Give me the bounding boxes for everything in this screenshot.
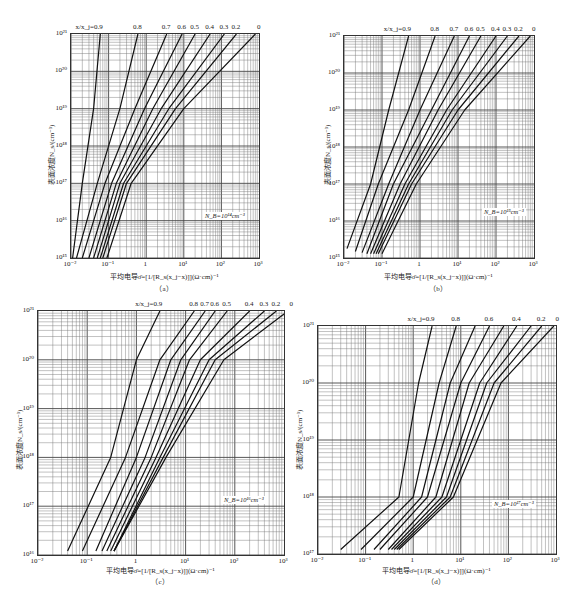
x-axis-label-d: 平均电导σ̄=[1/[R_s(x_j−x)]](Ω·cm)⁻¹: [317, 565, 555, 575]
x-tick-label: 10²: [492, 556, 522, 564]
curve-top-label: 0.6: [210, 300, 219, 308]
y-tick-label: 10²⁰: [314, 68, 340, 76]
curve-0_9: [347, 36, 409, 249]
curve-top-label: x/x_j=0.9: [76, 23, 103, 31]
x-tick-label: 10³: [518, 260, 548, 268]
y-tick-label: 10¹⁷: [8, 501, 34, 509]
y-tick-label: 10²⁰: [8, 355, 34, 363]
curve-top-label: 0.5: [476, 25, 485, 33]
sub-label-a: （a）: [70, 283, 258, 293]
curve-0_3: [394, 326, 531, 550]
chart-c-svg: [38, 311, 284, 555]
y-tick-label: 10¹⁹: [314, 105, 340, 113]
curve-top-label: 0.7: [162, 23, 171, 31]
curve-top-label: 0: [257, 23, 261, 31]
curve-top-label: 0.2: [514, 25, 523, 33]
curve-top-label: 0.7: [449, 25, 458, 33]
nb-annotation-d: N_B=10¹⁷cm⁻³: [492, 500, 536, 508]
chart-d-svg: [318, 326, 556, 554]
curve-top-label: 0.5: [190, 23, 199, 31]
curve-0_6: [102, 311, 215, 551]
curve-top-label: 0.2: [537, 315, 546, 323]
x-axis-label-a: 平均电导σ̄=[1/[R_s(x_j−x)]](Ω·cm)⁻¹: [70, 271, 258, 281]
x-axis-label-b: 平均电导σ̄=[1/[R_s(x_j−x)]](Ω·cm)⁻¹: [343, 271, 533, 281]
x-tick-label: 10⁻²: [55, 260, 85, 268]
y-axis-label-b: 表面浓度N_s/(cm⁻³): [322, 125, 332, 185]
nb-annotation-a: N_B=10¹⁴cm⁻³: [203, 212, 247, 220]
y-tick-label: 10²¹: [314, 31, 340, 39]
curve-top-label: 0.8: [430, 25, 439, 33]
curve-top-label: 0.4: [512, 315, 521, 323]
curve-top-label: x/x_j=0.9: [407, 315, 434, 323]
y-tick-label: 10²¹: [41, 29, 67, 37]
curve-0_7: [96, 311, 205, 551]
y-tick-label: 10¹⁶: [41, 216, 67, 224]
y-tick-label: 10²¹: [8, 306, 34, 314]
curve-top-label: 0.3: [260, 300, 269, 308]
curve-top-label: 0.7: [200, 300, 209, 308]
chart-b-svg: [344, 36, 534, 258]
sub-label-b: （b）: [343, 283, 533, 293]
curve-top-label: 0.6: [485, 315, 494, 323]
x-tick-label: 10⁻²: [328, 260, 358, 268]
curve-top-label: 0.6: [177, 23, 186, 31]
y-axis-label-a: 表面浓度N_s/(cm⁻³): [46, 125, 56, 185]
curve-top-label: 0.8: [189, 300, 198, 308]
y-tick-label: 10¹⁹: [41, 104, 67, 112]
x-tick-label: 10²: [205, 260, 235, 268]
plot-area-b: [343, 35, 535, 259]
chart-a-svg: [71, 34, 259, 258]
plot-area-c: [37, 310, 285, 556]
x-tick-label: 10²: [480, 260, 510, 268]
x-tick-label: 10¹: [442, 260, 472, 268]
x-tick-label: 10⁻¹: [350, 556, 380, 564]
x-axis-label-c: 平均电导σ̄=[1/[R_s(x_j−x)]](Ω·cm)⁻¹: [37, 565, 283, 575]
x-tick-label: 10²: [219, 557, 249, 565]
plot-area-d: [317, 325, 557, 555]
x-tick-label: 1: [120, 557, 150, 565]
x-tick-label: 10³: [540, 556, 570, 564]
curve-top-label: 0.2: [231, 23, 240, 31]
curve-0_2: [114, 311, 276, 551]
nb-annotation-b: N_B=10¹⁵cm⁻³: [482, 208, 526, 216]
x-tick-label: 1: [130, 260, 160, 268]
x-tick-label: 10⁻²: [302, 556, 332, 564]
curve-0: [399, 326, 554, 550]
x-tick-label: 10¹: [168, 260, 198, 268]
x-tick-label: 1: [404, 260, 434, 268]
curve-top-label: 0.6: [465, 25, 474, 33]
curve-top-label: x/x_j=0.9: [135, 300, 162, 308]
curve-top-label: 0.4: [205, 23, 214, 31]
x-tick-label: 10⁻¹: [93, 260, 123, 268]
curve-top-label: 0: [532, 25, 536, 33]
x-tick-label: 10³: [268, 557, 298, 565]
curve-top-label: 0: [290, 300, 294, 308]
curve-top-label: 0.5: [222, 300, 231, 308]
y-axis-label-d: 表面浓度N_s/(cm⁻³): [294, 410, 304, 470]
x-tick-label: 1: [397, 556, 427, 564]
curve-top-label: 0.3: [219, 23, 228, 31]
y-tick-label: 10²¹: [288, 321, 314, 329]
x-tick-label: 10⁻²: [22, 557, 52, 565]
x-tick-label: 10³: [243, 260, 273, 268]
curve-top-label: 0.4: [491, 25, 500, 33]
x-tick-label: 10⁻¹: [71, 557, 101, 565]
y-tick-label: 10¹⁶: [314, 216, 340, 224]
y-axis-label-c: 表面浓度N_s/(cm⁻³): [14, 410, 24, 470]
curve-top-label: 0.8: [133, 23, 142, 31]
curve-top-label: 0.3: [503, 25, 512, 33]
curve-top-label: 0.8: [451, 315, 460, 323]
x-tick-label: 10⁻¹: [366, 260, 396, 268]
x-tick-label: 10¹: [445, 556, 475, 564]
y-tick-label: 10²⁰: [288, 378, 314, 386]
curve-top-label: 0: [556, 315, 560, 323]
sub-label-c: （c）: [37, 576, 283, 586]
x-tick-label: 10¹: [170, 557, 200, 565]
y-tick-label: 10¹⁸: [288, 492, 314, 500]
sub-label-d: （d）: [317, 576, 555, 586]
nb-annotation-c: N_B=10¹⁶cm⁻³: [222, 496, 266, 504]
curve-top-label: x/x_j=0.9: [384, 25, 411, 33]
curve-top-label: 0.4: [245, 300, 254, 308]
plot-area-a: [70, 33, 260, 259]
curve-top-label: 0.2: [271, 300, 280, 308]
